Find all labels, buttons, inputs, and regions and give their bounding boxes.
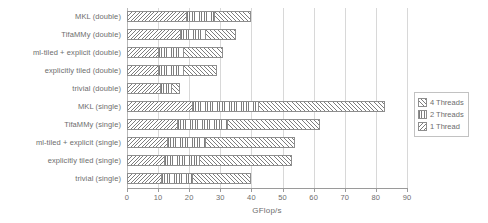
- bar-segment-2-threads: [164, 155, 198, 166]
- bar-segment-4-threads: [183, 47, 223, 58]
- bar-segment-4-threads: [205, 137, 295, 148]
- legend-item: 1 Thread: [418, 121, 464, 132]
- x-tick-label: 40: [239, 193, 263, 202]
- tick-mark: [189, 188, 190, 192]
- bar-segment-2-threads: [167, 137, 204, 148]
- bar-segment-1-thread: [127, 137, 167, 148]
- stacked-bar: [127, 47, 223, 58]
- bar-segment-4-threads: [205, 29, 236, 40]
- category-label: explicitly tiled (single): [0, 152, 121, 170]
- bar-segment-1-thread: [127, 47, 158, 58]
- stacked-bar: [127, 155, 292, 166]
- legend-swatch-icon: [418, 98, 427, 107]
- category-label: ml-tiled + explicit (single): [0, 134, 121, 152]
- x-tick-label: 80: [364, 193, 388, 202]
- bar-segment-2-threads: [186, 11, 214, 22]
- tick-mark: [376, 188, 377, 192]
- bar-segment-1-thread: [127, 173, 161, 184]
- bar-segment-2-threads: [192, 101, 257, 112]
- legend-swatch-icon: [418, 122, 427, 131]
- x-axis-title: GFlop/s: [127, 206, 407, 215]
- category-label: ml-tiled + explicit (double): [0, 44, 121, 62]
- tick-mark: [220, 188, 221, 192]
- bar-segment-2-threads: [161, 173, 192, 184]
- x-tick-label: 50: [271, 193, 295, 202]
- bar-segment-4-threads: [183, 65, 217, 76]
- x-tick-label: 10: [146, 193, 170, 202]
- x-tick-label: 70: [333, 193, 357, 202]
- legend-swatch-icon: [418, 110, 427, 119]
- bar-segment-2-threads: [180, 29, 205, 40]
- bar-segment-1-thread: [127, 65, 158, 76]
- bar-segment-2-threads: [158, 65, 183, 76]
- tick-mark: [251, 188, 252, 192]
- legend-label: 2 Threads: [430, 110, 464, 119]
- bar-chart: 0102030405060708090 MKL (double)TifaMMy …: [0, 0, 488, 223]
- legend-item: 2 Threads: [418, 109, 464, 120]
- x-tick-label: 90: [395, 193, 419, 202]
- bar-segment-4-threads: [258, 101, 386, 112]
- x-tick-label: 30: [208, 193, 232, 202]
- x-tick-label: 60: [302, 193, 326, 202]
- category-label: TifaMMy (single): [0, 116, 121, 134]
- stacked-bar: [127, 119, 320, 130]
- category-label: MKL (double): [0, 8, 121, 26]
- tick-mark: [127, 188, 128, 192]
- stacked-bar: [127, 65, 217, 76]
- category-label: trivial (single): [0, 170, 121, 188]
- bar-segment-1-thread: [127, 29, 180, 40]
- stacked-bar: [127, 101, 385, 112]
- x-tick-label: 0: [115, 193, 139, 202]
- bar-segment-2-threads: [158, 47, 183, 58]
- bar-segment-4-threads: [171, 83, 180, 94]
- bar-segment-1-thread: [127, 155, 164, 166]
- stacked-bar: [127, 11, 251, 22]
- bar-row: TifaMMy (double): [0, 26, 488, 44]
- legend-label: 4 Threads: [430, 98, 464, 107]
- legend-item: 4 Threads: [418, 97, 464, 108]
- bar-segment-1-thread: [127, 101, 192, 112]
- category-label: explicitly tiled (double): [0, 62, 121, 80]
- chart-legend: 4 Threads2 Threads1 Thread: [414, 92, 469, 137]
- tick-mark: [345, 188, 346, 192]
- stacked-bar: [127, 83, 180, 94]
- bar-segment-1-thread: [127, 11, 186, 22]
- bar-row: explicitly tiled (single): [0, 152, 488, 170]
- bar-segment-4-threads: [192, 173, 251, 184]
- tick-mark: [283, 188, 284, 192]
- bar-segment-4-threads: [214, 11, 251, 22]
- bar-segment-2-threads: [177, 119, 227, 130]
- bar-row: MKL (double): [0, 8, 488, 26]
- tick-mark: [407, 188, 408, 192]
- tick-mark: [158, 188, 159, 192]
- stacked-bar: [127, 137, 295, 148]
- x-tick-label: 20: [177, 193, 201, 202]
- legend-label: 1 Thread: [430, 122, 460, 131]
- stacked-bar: [127, 173, 251, 184]
- bar-segment-1-thread: [127, 119, 177, 130]
- x-axis-line: [127, 188, 408, 189]
- bar-segment-4-threads: [199, 155, 292, 166]
- bar-row: trivial (single): [0, 170, 488, 188]
- stacked-bar: [127, 29, 236, 40]
- bar-row: ml-tiled + explicit (double): [0, 44, 488, 62]
- category-label: trivial (double): [0, 80, 121, 98]
- bar-segment-4-threads: [227, 119, 320, 130]
- category-label: TifaMMy (double): [0, 26, 121, 44]
- bar-segment-1-thread: [127, 83, 160, 94]
- tick-mark: [314, 188, 315, 192]
- bar-segment-2-threads: [160, 83, 171, 94]
- bar-row: explicitly tiled (double): [0, 62, 488, 80]
- category-label: MKL (single): [0, 98, 121, 116]
